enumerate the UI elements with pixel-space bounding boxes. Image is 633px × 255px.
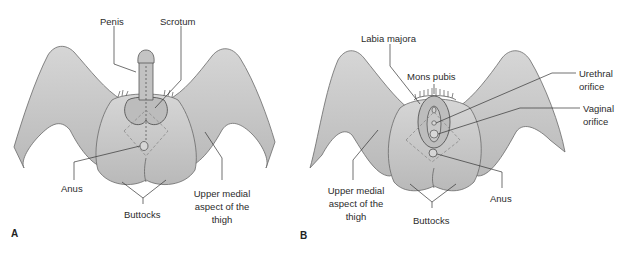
panel-letter-a: A xyxy=(11,228,18,239)
urethral-orifice-shape xyxy=(432,121,436,125)
label-scrotum: Scrotum xyxy=(160,15,195,28)
label-mons-pubis: Mons pubis xyxy=(407,70,456,83)
label-buttocks-a: Buttocks xyxy=(124,208,160,221)
panel-letter-b: B xyxy=(300,230,307,241)
label-thigh-a: Upper medial aspect of the thigh xyxy=(186,187,258,226)
anus-a xyxy=(140,142,148,151)
label-urethral-orifice: Urethral orifice xyxy=(579,67,613,93)
diagram-artwork xyxy=(0,0,633,255)
panel-a-figure xyxy=(14,26,275,204)
label-anus-b: Anus xyxy=(490,192,512,205)
label-penis: Penis xyxy=(100,15,124,28)
anatomy-diagram: Penis Scrotum Anus Buttocks Upper medial… xyxy=(0,0,633,255)
vaginal-orifice-shape xyxy=(430,130,438,138)
anus-b xyxy=(429,149,437,157)
label-thigh-b: Upper medial aspect of the thigh xyxy=(320,184,392,223)
label-buttocks-b: Buttocks xyxy=(413,214,449,227)
label-anus-a: Anus xyxy=(61,182,83,195)
label-labia-majora: Labia majora xyxy=(361,32,416,45)
penis-glans xyxy=(138,50,154,63)
clitoris xyxy=(432,107,436,113)
leader-penis xyxy=(114,26,136,72)
label-vaginal-orifice: Vaginal orifice xyxy=(583,102,614,128)
